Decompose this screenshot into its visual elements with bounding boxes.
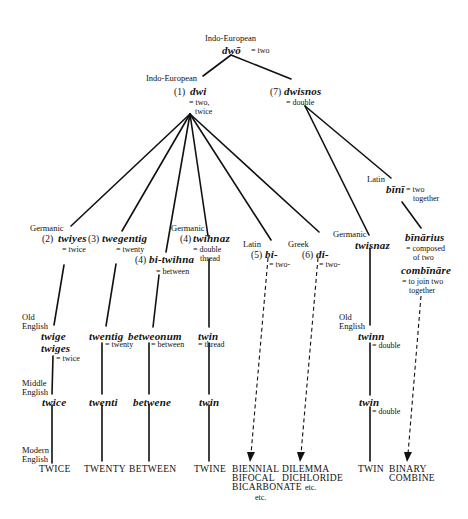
dwisnos-gloss: = double xyxy=(286,99,314,107)
bi-language-label: Latin xyxy=(243,240,261,249)
di-language-label: Greek xyxy=(288,240,309,249)
combinare-gloss-1: = to join two xyxy=(402,278,443,286)
me-twenti: twenti xyxy=(89,397,118,408)
edge-twiges-twice xyxy=(52,356,53,394)
modern-di-etc: etc. xyxy=(305,484,316,492)
modern-TWINE: TWINE xyxy=(194,465,226,475)
edge-dwisnos-bini xyxy=(305,106,391,178)
bitwihna-word: bi-twihna xyxy=(149,254,194,265)
modern-COMBINE: COMBINE xyxy=(389,474,435,484)
dwi-word: dwi xyxy=(190,86,207,97)
arrowhead-bi xyxy=(247,452,255,462)
me-twice: twice xyxy=(42,397,66,408)
twihnaz-number: (4) xyxy=(180,235,191,245)
oe-betweonum-gloss: = between xyxy=(151,341,184,349)
me-twin: twin xyxy=(199,397,219,408)
twihnaz-gloss-2: thread xyxy=(200,255,220,263)
twihnaz-word: twihnaz xyxy=(193,233,230,244)
oe-twinn-gloss: = double xyxy=(372,342,400,350)
oe-twin-gloss: = thread xyxy=(198,341,225,349)
dwisnos-word: dwisnos xyxy=(284,86,321,97)
edge-bi-BIENNIAL-dashed xyxy=(251,258,268,454)
bitwihna-number: (4) xyxy=(135,256,146,266)
arrowhead-combinare xyxy=(404,452,412,462)
edge-di-DILEMMA-dashed xyxy=(301,258,318,454)
modern-BETWEEN: BETWEEN xyxy=(129,465,176,475)
binarius-gloss-1: = composed xyxy=(406,245,445,253)
oe-twige: twige xyxy=(41,331,66,342)
edge-root-dwi xyxy=(203,55,231,76)
edge-bini-binarius xyxy=(402,202,421,228)
edge-dwi-twihnaz xyxy=(190,114,208,236)
bini-gloss-2: together xyxy=(413,195,439,203)
root-language-label: Indo-European xyxy=(205,34,256,43)
edge-combinare-BINARY-dashed xyxy=(408,296,421,454)
dwi-gloss-2: twice xyxy=(195,108,212,116)
twiyes-word: twiyes xyxy=(58,233,87,244)
modern-TWIN: TWIN xyxy=(358,465,384,475)
bi-gloss: = two- xyxy=(269,261,290,269)
bitwihna-gloss: = between xyxy=(156,268,189,276)
modern-english-label-2: English xyxy=(22,455,48,464)
edge-root-dwisnos xyxy=(231,55,291,79)
bini-language-label: Latin xyxy=(367,175,385,184)
etymology-tree-diagram: Indo-European dwō = two Indo-European (1… xyxy=(0,0,468,519)
binarius-word: bīnārius xyxy=(405,232,445,243)
twisnaz-language-label: Germanic xyxy=(333,230,367,239)
oe-twentig-gloss: = twenty xyxy=(105,341,133,349)
twegentig-number: (3) xyxy=(88,235,99,245)
twegentig-gloss: = twenty xyxy=(116,246,144,254)
root-word: dwō xyxy=(222,45,241,56)
modern-bi-etc: etc. xyxy=(255,494,266,502)
bini-gloss-1: = two xyxy=(406,186,425,194)
modern-TWENTY: TWENTY xyxy=(84,465,126,475)
combinare-gloss-2: together xyxy=(409,287,435,295)
dwi-gloss-1: = two, xyxy=(189,99,210,107)
twihnaz-gloss-1: = double xyxy=(193,246,221,254)
twiyes-gloss: = twice xyxy=(62,246,86,254)
modern-BICARBONATE: BICARBONATE xyxy=(232,483,302,493)
twegentig-word: twegentig xyxy=(102,233,147,244)
edge-dwisnos-twisnaz xyxy=(305,106,369,235)
bi-number: (5) xyxy=(251,251,262,261)
root-gloss: = two xyxy=(251,47,270,55)
bini-word: bīnī xyxy=(386,184,405,195)
twiyes-number: (2) xyxy=(42,235,53,245)
oe-twiges-gloss: = twice xyxy=(56,355,80,363)
modern-TWICE: TWICE xyxy=(39,465,71,475)
dwi-number: (1) xyxy=(174,88,185,98)
twisnaz-word: twisnaz xyxy=(355,240,390,251)
me-betwene: betwene xyxy=(133,397,171,408)
di-word: di- xyxy=(316,249,329,260)
me-twin-right-gloss: = double xyxy=(372,408,400,416)
arrowhead-di xyxy=(297,452,305,462)
dwi-language-label: Indo-European xyxy=(146,74,197,83)
bi-word: bi- xyxy=(265,249,278,260)
di-number: (6) xyxy=(302,251,313,261)
binarius-gloss-2: of two xyxy=(413,254,434,262)
oe-twiges: twiges xyxy=(41,343,70,354)
edge-dwi-twiyes xyxy=(71,114,190,226)
edge-twegentig-twentig xyxy=(106,264,116,326)
combinare-word: combīnāre xyxy=(401,265,451,276)
dwisnos-number: (7) xyxy=(270,88,281,98)
edge-bitwihna-betweonum xyxy=(153,275,159,327)
edge-twiyes-twige xyxy=(54,265,64,325)
di-gloss: = two- xyxy=(319,261,340,269)
tree-lines xyxy=(0,0,468,519)
